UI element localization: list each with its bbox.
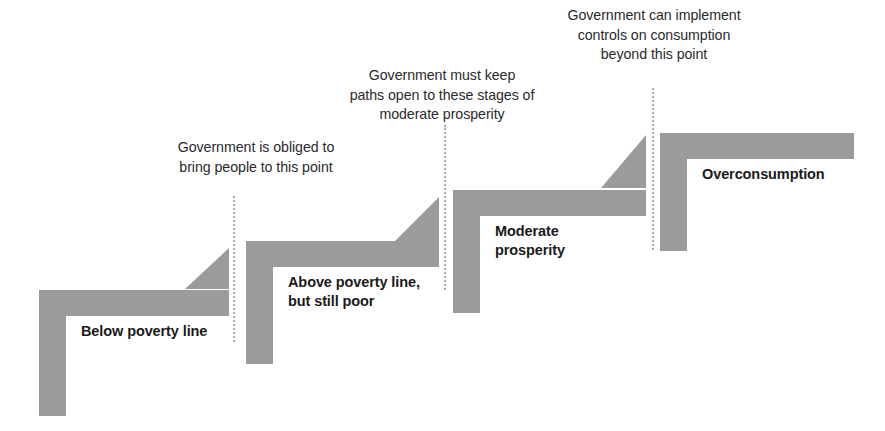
guide-line-step-1 bbox=[233, 196, 235, 342]
annotation-controls-on-consumption: Government can implement controls on con… bbox=[543, 6, 765, 65]
diagram-canvas: Government is obliged to bring people to… bbox=[0, 0, 885, 431]
step-overconsumption[interactable]: Overconsumption bbox=[660, 133, 854, 251]
riser-triangle-step-3 bbox=[601, 135, 646, 188]
step-horizontal-bar bbox=[660, 133, 854, 159]
riser-triangle-step-2 bbox=[395, 197, 439, 241]
step-above-poverty-line-but-still-poor[interactable]: Above poverty line, but still poor bbox=[246, 241, 439, 364]
step-horizontal-bar bbox=[246, 241, 439, 267]
step-label-below-poverty-line: Below poverty line bbox=[81, 322, 261, 341]
annotation-bring-people-to-this-point: Government is obliged to bring people to… bbox=[150, 138, 362, 177]
step-below-poverty-line[interactable]: Below poverty line bbox=[39, 290, 229, 416]
step-horizontal-bar bbox=[39, 290, 229, 316]
step-label-overconsumption: Overconsumption bbox=[702, 165, 882, 184]
annotation-keep-paths-open: Government must keep paths open to these… bbox=[333, 66, 551, 125]
step-label-moderate-prosperity: Moderate prosperity bbox=[495, 222, 645, 260]
step-label-above-poverty-line-but-still-poor: Above poverty line, but still poor bbox=[288, 273, 468, 311]
step-moderate-prosperity[interactable]: Moderate prosperity bbox=[453, 190, 646, 313]
guide-line-step-2 bbox=[444, 125, 446, 290]
riser-triangle-step-1 bbox=[185, 248, 229, 289]
guide-line-step-3 bbox=[652, 88, 654, 250]
step-horizontal-bar bbox=[453, 190, 646, 216]
